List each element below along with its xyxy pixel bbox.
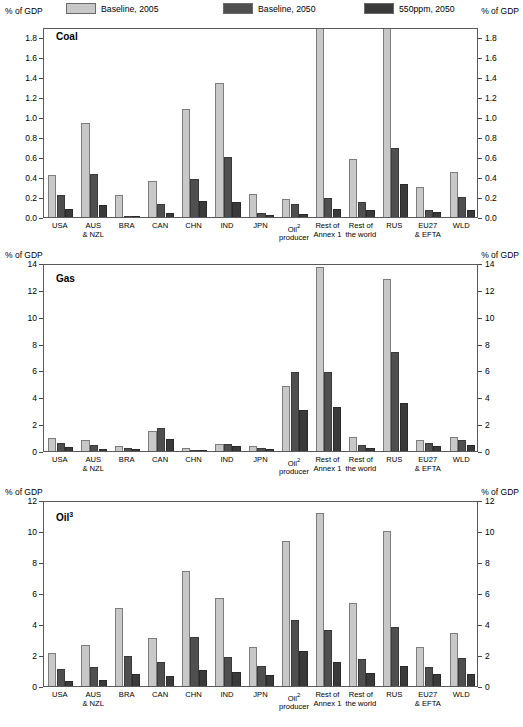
legend-unit-label-left: % of GDP [5,6,43,16]
bar [416,647,424,686]
y-axis-tick-mark [478,501,482,502]
bar [215,83,223,217]
bar [358,445,366,451]
bar [433,446,441,451]
bar [215,598,223,686]
bar-group [48,28,73,217]
y-axis-tick-label: 6 [6,367,37,375]
chart-panel-gas: % of GDP % of GDP Gas 002244668810101212… [0,250,523,487]
bar [291,204,299,217]
bar [467,210,475,217]
y-axis-tick-label: 14 [485,260,494,268]
bar [257,448,265,451]
bar-group [148,28,173,217]
y-axis-tick-mark [478,98,482,99]
y-axis-tick-label: 0.8 [485,134,497,142]
panel-title-coal: Coal [56,31,78,42]
bar [358,202,366,217]
bar [48,653,56,686]
legend-item-550ppm-2050: 550ppm, 2050 [364,3,455,14]
y-axis-tick-mark [39,264,43,265]
bar [266,215,274,217]
bar [157,204,165,217]
bar-group [182,501,207,686]
y-axis-tick-mark [39,532,43,533]
y-axis-tick-label: 12 [485,497,494,505]
y-axis-tick-mark [39,563,43,564]
y-axis-tick-mark [39,118,43,119]
y-axis-tick-mark [39,78,43,79]
bar [416,440,424,451]
y-axis-tick-mark [478,625,482,626]
y-axis-tick-label: 8 [6,341,37,349]
bar [81,645,89,686]
y-axis-tick-mark [478,345,482,346]
y-axis-tick-mark [478,118,482,119]
bar [190,450,198,451]
bar [90,667,98,686]
bar [400,666,408,686]
y-axis-tick-label: 0.6 [485,154,497,162]
bar [182,448,190,451]
y-axis-tick-label: 8 [485,341,490,349]
bar [182,571,190,686]
bar-group [349,264,374,451]
bar [81,123,89,217]
y-axis-tick-mark [39,594,43,595]
y-axis-tick-label: 0.4 [6,174,37,182]
bar [232,202,240,217]
bar [425,443,433,451]
bar [99,680,107,686]
bar-group [249,264,274,451]
bar [166,439,174,451]
bar [400,184,408,217]
bar [282,541,290,686]
bar [224,444,232,451]
y-axis-tick-mark [39,501,43,502]
x-axis-tick-label: WLD [435,691,487,700]
y-axis-tick-mark [39,425,43,426]
y-axis-tick-mark [478,58,482,59]
y-axis-tick-label: 0.8 [6,134,37,142]
bar [467,445,475,451]
y-axis-tick-label: 0.4 [485,174,497,182]
y-axis-tick-label: 10 [485,528,494,536]
bar [349,603,357,686]
bar-group [450,264,475,451]
bar [450,633,458,686]
bar [157,428,165,451]
y-axis-tick-label: 6 [6,590,37,598]
bar [132,674,140,686]
bar [148,638,156,686]
y-axis-tick-label: 10 [6,528,37,536]
bar [182,109,190,217]
legend-swatch-550ppm-2050 [364,3,394,14]
y-axis-tick-mark [39,318,43,319]
y-axis-tick-label: 1.8 [485,34,497,42]
bar-group [282,501,307,686]
y-axis-tick-mark [478,158,482,159]
legend-item-baseline-2050: Baseline, 2050 [223,3,315,14]
bar [166,213,174,217]
bar [282,199,290,217]
bar-group [416,28,441,217]
bar [166,676,174,686]
bar-group [215,264,240,451]
y-axis-tick-label: 0 [485,683,490,691]
y-axis-tick-label: 0 [6,683,37,691]
y-axis-tick-mark [478,318,482,319]
y-axis-tick-label: 0.6 [6,154,37,162]
plot-area-oil [43,501,478,687]
y-axis-tick-mark [478,656,482,657]
y-axis-tick-mark [478,198,482,199]
y-axis-tick-label: 6 [485,590,490,598]
bar [383,279,391,451]
bar-group [182,264,207,451]
y-axis-tick-mark [39,687,43,688]
bar [65,447,73,451]
bar [124,448,132,451]
y-axis-tick-mark [478,138,482,139]
legend-label-550ppm-2050: 550ppm, 2050 [399,4,455,14]
bar [232,446,240,451]
legend-item-baseline-2005: Baseline, 2005 [66,3,158,14]
